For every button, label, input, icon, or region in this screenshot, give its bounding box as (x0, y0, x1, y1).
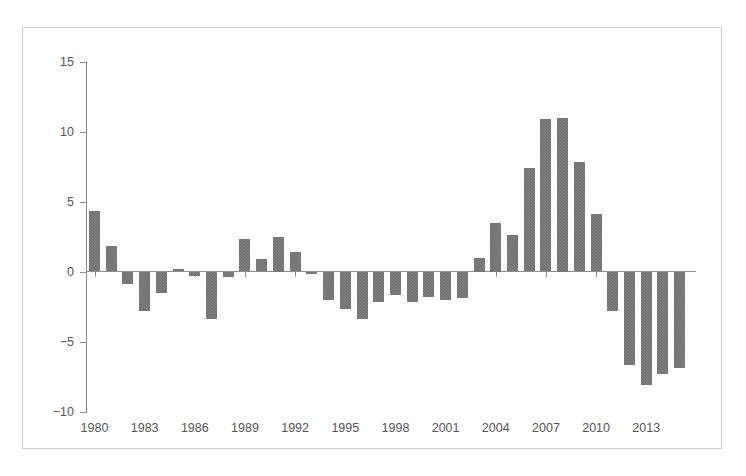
bar (457, 272, 468, 299)
x-tick-label-2007: 2007 (532, 421, 560, 435)
x-tick-label-1989: 1989 (231, 421, 259, 435)
y-tick-label: 15 (60, 55, 74, 69)
y-tick-label: 5 (67, 195, 74, 209)
y-axis-line (86, 62, 87, 413)
y-tick-mark (80, 342, 86, 343)
bar (273, 237, 284, 272)
bar (290, 252, 301, 272)
y-tick-label: 0 (67, 265, 74, 279)
bar (607, 272, 618, 311)
bar (624, 272, 635, 366)
bar (340, 272, 351, 310)
bar (407, 272, 418, 303)
x-tick-label-1998: 1998 (382, 421, 410, 435)
y-tick-mark (80, 272, 86, 273)
bar (591, 214, 602, 271)
bar (189, 272, 200, 276)
bar (574, 162, 585, 271)
x-tick-label-2010: 2010 (582, 421, 610, 435)
bar (139, 272, 150, 311)
y-tick-mark (80, 412, 86, 413)
bar (256, 259, 267, 272)
x-tick-mark-1992 (295, 272, 296, 277)
y-tick-mark (80, 132, 86, 133)
x-tick-label-1995: 1995 (331, 421, 359, 435)
bar (106, 246, 117, 271)
bar (440, 272, 451, 300)
y-tick-mark (80, 62, 86, 63)
plot-area: 151050−5−10 1980198319861989199219951998… (0, 0, 746, 476)
bar (357, 272, 368, 320)
y-tick-label: 10 (60, 125, 74, 139)
bar (540, 119, 551, 272)
x-tick-label-2013: 2013 (632, 421, 660, 435)
y-tick-label: −10 (53, 405, 74, 419)
x-tick-label-1980: 1980 (81, 421, 109, 435)
bar (323, 272, 334, 300)
x-tick-mark-2004 (496, 272, 497, 277)
bar (239, 239, 250, 271)
bar (390, 272, 401, 296)
x-tick-label-2004: 2004 (482, 421, 510, 435)
bar (557, 118, 568, 272)
bar (89, 211, 100, 271)
bar (674, 272, 685, 369)
x-tick-mark-2010 (596, 272, 597, 277)
bar (122, 272, 133, 285)
bar (423, 272, 434, 297)
bar (306, 272, 317, 275)
x-tick-label-1983: 1983 (131, 421, 159, 435)
bar (173, 269, 184, 271)
bar (206, 272, 217, 320)
x-tick-mark-1989 (245, 272, 246, 277)
bar (474, 258, 485, 272)
bar (657, 272, 668, 374)
y-tick-label: −5 (60, 335, 74, 349)
bar (641, 272, 652, 385)
bar (524, 168, 535, 272)
bar (490, 223, 501, 272)
bar (223, 272, 234, 278)
x-tick-mark-1980 (95, 272, 96, 277)
y-tick-mark (80, 202, 86, 203)
x-tick-mark-2007 (546, 272, 547, 277)
x-tick-label-1992: 1992 (281, 421, 309, 435)
bar (507, 235, 518, 271)
x-tick-label-2001: 2001 (432, 421, 460, 435)
bar (373, 272, 384, 303)
figure-container: 151050−5−10 1980198319861989199219951998… (0, 0, 746, 476)
x-tick-label-1986: 1986 (181, 421, 209, 435)
bar (156, 272, 167, 293)
